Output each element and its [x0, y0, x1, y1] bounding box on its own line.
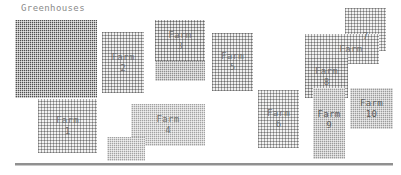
treemap-cell-farm-3[interactable]: Farm 3 [155, 20, 205, 61]
treemap-cell-farm-4-foot[interactable] [107, 137, 145, 161]
treemap-cell-farm-10[interactable]: Farm 10 [350, 88, 393, 129]
cell-fill [350, 88, 393, 129]
cell-fill [155, 20, 205, 61]
treemap-chart: Greenhouses Farm 1 Farm 2 Farm 3 Farm 4 … [0, 0, 401, 175]
treemap-cell-farm-1[interactable]: Farm 1 [38, 99, 97, 153]
cell-fill [212, 33, 253, 91]
chart-baseline-shadow [15, 165, 393, 166]
cell-fill [258, 90, 299, 148]
treemap-cell-farm-5[interactable]: Farm 5 [212, 33, 253, 91]
treemap-cell-farm-2[interactable]: Farm 2 [102, 32, 144, 93]
treemap-cell-farm-6[interactable]: Farm 6 [258, 90, 299, 148]
cell-fill [102, 32, 144, 93]
treemap-cell-root[interactable] [15, 20, 97, 98]
cell-fill [107, 137, 145, 161]
treemap-cell-farm-3-band[interactable] [155, 61, 205, 81]
treemap-cell-farm-9[interactable]: Farm 9 [313, 88, 345, 159]
cell-fill [313, 88, 345, 159]
chart-baseline [15, 163, 393, 165]
cell-fill [155, 61, 205, 81]
cell-fill [38, 99, 97, 153]
cell-fill [15, 20, 97, 98]
chart-title: Greenhouses [21, 3, 85, 13]
